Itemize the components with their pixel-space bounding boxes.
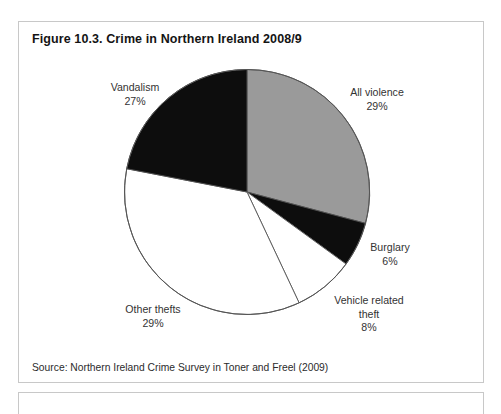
pie-label-vandalism-value: 27% — [87, 95, 183, 109]
pie-label-other-thefts: Other thefts 29% — [98, 303, 208, 330]
pie-label-all-violence-title: All violence — [325, 86, 429, 100]
pie-label-vehicle-related-theft: Vehicle related theft 8% — [315, 294, 423, 335]
pie-label-burglary-value: 6% — [344, 255, 436, 269]
pie-label-vandalism-title: Vandalism — [87, 81, 183, 95]
pie-label-other-thefts-title: Other thefts — [98, 303, 208, 317]
figure-source-note: Source: Northern Ireland Crime Survey in… — [32, 362, 328, 373]
pie-label-vehicle-related-theft-title2: theft — [315, 308, 423, 322]
pie-label-vandalism: Vandalism 27% — [87, 81, 183, 108]
pie-label-all-violence-value: 29% — [325, 100, 429, 114]
pie-chart: Vandalism 27% All violence 29% Burglary … — [19, 22, 485, 384]
next-figure-container — [18, 392, 484, 414]
pie-label-vehicle-related-theft-value: 8% — [315, 321, 423, 335]
figure-container: Figure 10.3. Crime in Northern Ireland 2… — [18, 21, 484, 383]
pie-label-all-violence: All violence 29% — [325, 86, 429, 113]
pie-label-other-thefts-value: 29% — [98, 317, 208, 331]
pie-label-burglary: Burglary 6% — [344, 241, 436, 268]
pie-label-burglary-title: Burglary — [344, 241, 436, 255]
pie-label-vehicle-related-theft-title: Vehicle related — [315, 294, 423, 308]
